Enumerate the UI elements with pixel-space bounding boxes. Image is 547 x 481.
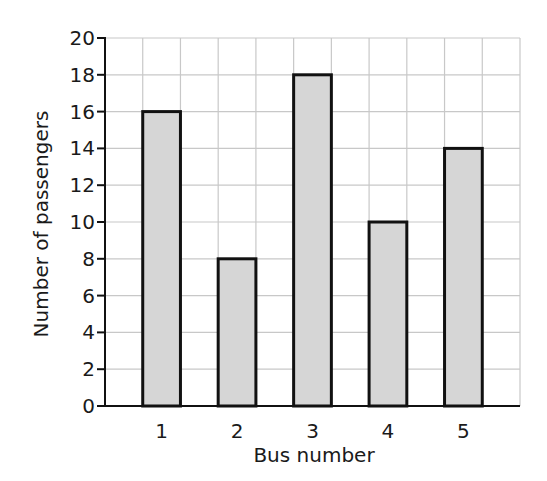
x-tick-label: 3 [306,419,319,443]
x-tick-labels: 12345 [155,419,470,443]
y-tick-label: 4 [82,320,95,344]
y-tick-labels: 02468101214161820 [70,26,95,418]
y-tick-label: 10 [70,210,95,234]
y-tick-label: 12 [70,173,95,197]
y-tick-label: 14 [70,136,95,160]
x-axis-title: Bus number [253,443,375,467]
y-tick-label: 2 [82,357,95,381]
bar-bus-2 [218,259,256,406]
y-tick-label: 8 [82,247,95,271]
x-tick-label: 2 [231,419,244,443]
bar-bus-1 [143,112,181,406]
x-tick-label: 5 [457,419,470,443]
bar-chart: 02468101214161820 12345 Number of passen… [0,0,547,481]
y-axis-title: Number of passengers [29,111,53,338]
bar-bus-5 [445,148,483,406]
x-tick-label: 1 [155,419,168,443]
y-tick-label: 16 [70,100,95,124]
y-tick-label: 20 [70,26,95,50]
y-tick-label: 18 [70,63,95,87]
bars [143,75,483,406]
y-tick-label: 0 [82,394,95,418]
bar-bus-4 [369,222,407,406]
y-tick-label: 6 [82,284,95,308]
x-tick-label: 4 [382,419,395,443]
bar-bus-3 [294,75,332,406]
